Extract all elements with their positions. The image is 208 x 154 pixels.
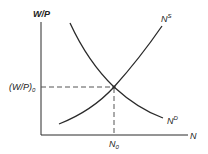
supply-curve: [59, 26, 162, 124]
demand-curve-label: ND: [167, 115, 179, 126]
demand-curve: [70, 23, 163, 118]
supply-curve-label: NS: [161, 13, 172, 24]
equilibrium-employment-label: N0: [109, 139, 120, 150]
equilibrium-wage-label: (W/P)0: [9, 82, 36, 93]
x-axis-label: N: [190, 131, 197, 141]
labor-market-diagram: W/P N (W/P)0 N0 NS ND: [0, 0, 208, 154]
equilibrium-point: [112, 85, 115, 88]
y-axis-label: W/P: [33, 9, 51, 19]
